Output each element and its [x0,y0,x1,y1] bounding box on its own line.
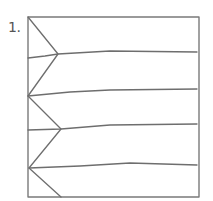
folding-diagram [0,0,213,201]
horizontal-fold-line-1 [28,51,197,58]
square-frame [28,17,199,197]
horizontal-fold-line-2 [28,89,197,96]
zigzag-fold-line [28,17,61,197]
horizontal-fold-line-4 [29,163,197,168]
horizontal-fold-line-3 [28,124,197,130]
